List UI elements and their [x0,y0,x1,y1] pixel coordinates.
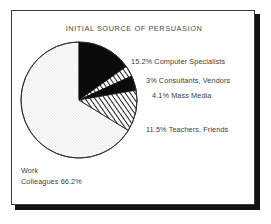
label-work-colleagues: Work Colleagues 66.2% [21,166,82,187]
label-consultants-vendors: 3% Consultants, Vendors [146,76,230,85]
chart-figure: INITIAL SOURCE OF PERSUASION 15.2% Compu… [0,0,271,224]
label-computer-specialists: 15.2% Computer Specialists [131,57,225,66]
label-work-colleagues-line1: Work [21,166,82,177]
label-teachers-friends: 11.5% Teachers, Friends [146,125,228,134]
label-mass-media: 4.1% Mass Media [152,91,212,100]
label-work-colleagues-line2: Colleagues 66.2% [21,177,82,188]
